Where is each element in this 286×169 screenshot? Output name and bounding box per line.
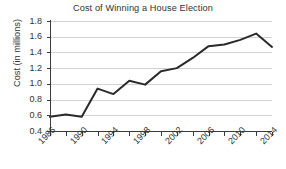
plot-area [50, 21, 272, 131]
y-tick-mark [47, 21, 51, 22]
y-tick-mark [47, 68, 51, 69]
x-tick-mark [193, 132, 194, 136]
x-tick-mark [129, 132, 130, 136]
y-tick-label: 1.6 [18, 31, 42, 41]
line-chart: Cost of Winning a House Election Cost (i… [0, 0, 286, 169]
x-tick-mark [98, 132, 99, 136]
y-axis-line [50, 20, 51, 132]
y-tick-mark [47, 84, 51, 85]
x-tick-mark [66, 132, 67, 136]
y-tick-label: 1.0 [18, 78, 42, 88]
y-tick-mark [47, 100, 51, 101]
y-tick-mark [47, 115, 51, 116]
y-tick-label: 0.8 [18, 94, 42, 104]
x-tick-mark [161, 132, 162, 136]
x-tick-mark [224, 132, 225, 136]
x-tick-mark [256, 132, 257, 136]
y-tick-label: 0.4 [18, 126, 42, 136]
data-series-line [50, 21, 272, 131]
y-tick-label: 1.4 [18, 47, 42, 57]
chart-title: Cost of Winning a House Election [0, 3, 286, 13]
y-tick-mark [47, 52, 51, 53]
y-tick-label: 1.8 [18, 16, 42, 26]
y-tick-mark [47, 37, 51, 38]
y-tick-label: 0.6 [18, 110, 42, 120]
y-tick-label: 1.2 [18, 63, 42, 73]
